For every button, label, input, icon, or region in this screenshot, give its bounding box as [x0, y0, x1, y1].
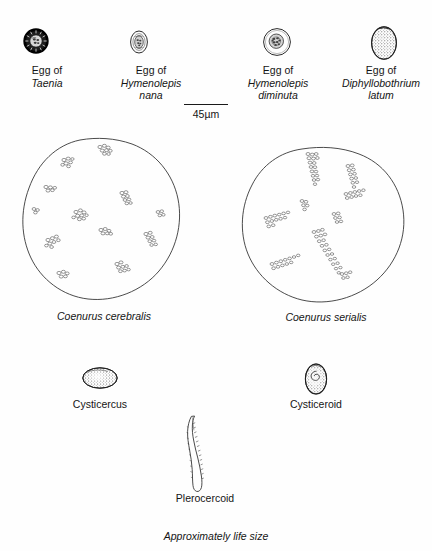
coenurus-serialis-drawing	[236, 146, 416, 308]
egg-diphyllobothrium-latum-drawing	[366, 22, 402, 64]
egg-hymenolepis-diminuta-drawing	[260, 25, 294, 59]
scale-bar-rule	[184, 104, 228, 105]
parasite-larval-stages-figure: Egg of Taenia Egg of Hymenolepis nana	[0, 0, 432, 551]
coenurus-cerebralis-drawing	[18, 136, 190, 304]
cysticercus-drawing	[76, 362, 124, 394]
egg-taenia-drawing	[22, 26, 50, 56]
cysticeroid-drawing	[299, 358, 333, 400]
scale-bar-label: 45µm	[166, 108, 246, 120]
scale-bar: 45µm	[166, 104, 246, 120]
caption-egg-taenia: Egg of Taenia	[0, 64, 94, 89]
label-cysticeroid: Cysticeroid	[264, 398, 368, 411]
egg-hymenolepis-nana-drawing	[127, 28, 151, 56]
caption-egg-hymenolepis-diminuta: Egg of Hymenolepis diminuta	[222, 64, 334, 102]
egg-dlatum-species-line2: latum	[330, 89, 432, 102]
egg-hnana-species-line2: nana	[95, 89, 207, 102]
egg-taenia-species: Taenia	[0, 77, 94, 90]
egg-dlatum-prefix: Egg of	[330, 64, 432, 77]
egg-hdiminuta-species-line1: Hymenolepis	[222, 77, 334, 90]
figure-note: Approximately life size	[0, 530, 432, 542]
egg-hnana-species-line1: Hymenolepis	[95, 77, 207, 90]
label-coenurus-cerebralis: Coenurus cerebralis	[8, 310, 200, 323]
label-cysticercus: Cysticercus	[46, 398, 154, 411]
egg-hdiminuta-prefix: Egg of	[222, 64, 334, 77]
egg-taenia-prefix: Egg of	[0, 64, 94, 77]
egg-hnana-prefix: Egg of	[95, 64, 207, 77]
label-plerocercoid: Plerocercoid	[150, 492, 260, 505]
plerocercoid-drawing	[178, 414, 226, 498]
label-coenurus-serialis: Coenurus serialis	[240, 311, 412, 324]
egg-hdiminuta-species-line2: diminuta	[222, 89, 334, 102]
egg-dlatum-species-line1: Diphyllobothrium	[330, 77, 432, 90]
caption-egg-diphyllobothrium-latum: Egg of Diphyllobothrium latum	[330, 64, 432, 102]
caption-egg-hymenolepis-nana: Egg of Hymenolepis nana	[95, 64, 207, 102]
